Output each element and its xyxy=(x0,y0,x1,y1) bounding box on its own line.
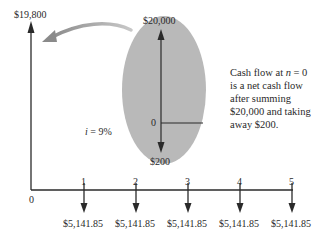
curved-arrow-icon xyxy=(50,24,131,38)
interest-rate-label: i = 9% xyxy=(85,126,112,137)
payment-label-5: $5,141.85 xyxy=(271,218,311,229)
payment-label-1: $5,141.85 xyxy=(63,218,103,229)
period-label-1: 1 xyxy=(81,176,86,187)
callout-bottom-label: $200 xyxy=(150,156,170,167)
curved-arrowhead-icon xyxy=(42,30,57,42)
period-label-3: 3 xyxy=(185,176,190,187)
note-line-1: Cash flow at n = 0 xyxy=(230,66,326,79)
net-inflow-label: $19,800 xyxy=(14,9,47,20)
note-line-5: away $200. xyxy=(230,118,326,131)
origin-label: 0 xyxy=(29,194,34,205)
callout-zero-label: 0 xyxy=(151,117,156,128)
period-arrows xyxy=(81,183,296,213)
explanatory-note: Cash flow at n = 0 is a net cash flow af… xyxy=(230,66,326,131)
period-label-2: 2 xyxy=(133,176,138,187)
callout-top-label: $20,000 xyxy=(143,15,176,26)
note-line-2: is a net cash flow xyxy=(230,79,326,92)
interest-symbol: i xyxy=(85,126,88,137)
callout-ellipse xyxy=(122,16,206,164)
period-label-4: 4 xyxy=(237,176,242,187)
up-arrowhead-icon xyxy=(28,21,35,33)
note-line-3: after summing xyxy=(230,92,326,105)
period-label-5: 5 xyxy=(289,176,294,187)
interest-value: = 9% xyxy=(90,126,111,137)
payment-label-4: $5,141.85 xyxy=(219,218,259,229)
payment-label-3: $5,141.85 xyxy=(167,218,207,229)
note-line-4: $20,000 and taking xyxy=(230,105,326,118)
payment-label-2: $5,141.85 xyxy=(115,218,155,229)
